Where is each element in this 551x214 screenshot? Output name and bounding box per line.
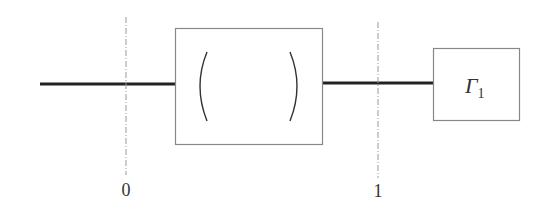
- load-box: Γ1: [434, 49, 520, 121]
- reference-plane-label-0: 0: [122, 180, 131, 200]
- reference-plane-label-1: 1: [374, 181, 383, 201]
- error-network-diagram: Γ1 0 1: [0, 0, 551, 214]
- error-box: [0, 0, 323, 145]
- error-box-border: [176, 29, 323, 145]
